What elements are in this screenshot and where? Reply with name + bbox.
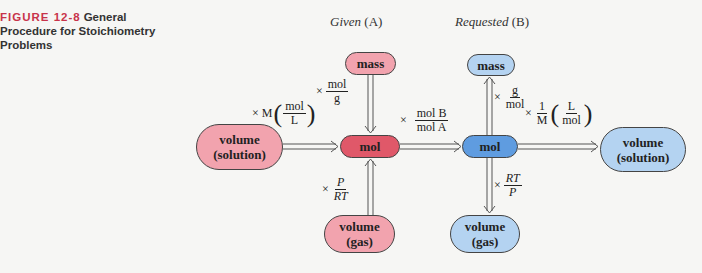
arrow-gas-to-mol	[365, 159, 376, 215]
arrow-solution-to-mol	[283, 141, 338, 152]
conversion-mol-to-mass: × g mol	[494, 84, 526, 111]
given-mass-node: mass	[345, 52, 396, 75]
conversion-mol-to-gas: × RT P	[494, 172, 522, 199]
conversion-mol-a-to-mol-b: × mol B mol A	[400, 107, 448, 134]
conversion-solution-to-mol: × M ( mol L )	[252, 100, 316, 127]
requested-mol-node: mol	[462, 135, 518, 158]
arrow-mol-a-to-mol-b	[400, 141, 461, 152]
requested-volume-solution-node: volume (solution)	[600, 127, 686, 172]
conversion-mol-to-solution: × 1 M ( L mol )	[525, 100, 593, 127]
given-volume-gas-node: volume (gas)	[324, 215, 395, 253]
conversion-mass-to-mol: × mol g	[316, 78, 348, 105]
arrow-mass-to-mol	[365, 75, 376, 133]
arrow-mol-to-solution	[518, 141, 598, 152]
requested-volume-gas-node: volume (gas)	[450, 215, 520, 253]
given-volume-solution-node: volume (solution)	[196, 124, 283, 170]
conversion-gas-to-mol: × P RT	[322, 176, 350, 203]
requested-mass-node: mass	[467, 54, 515, 76]
given-mol-node: mol	[340, 135, 400, 158]
